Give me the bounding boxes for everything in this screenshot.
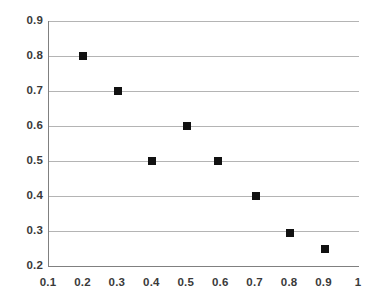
data-point <box>286 229 294 237</box>
x-axis-tick-label: 1 <box>338 277 377 289</box>
data-point <box>321 245 329 253</box>
y-axis-tick-label: 0.3 <box>1 225 43 237</box>
y-axis-tick-label: 0.2 <box>1 260 43 272</box>
data-point <box>114 87 122 95</box>
x-axis-labels: 0.10.20.30.40.50.60.70.80.91 <box>48 277 358 293</box>
data-point <box>252 192 260 200</box>
data-point <box>148 157 156 165</box>
y-axis-tick-label: 0.5 <box>1 155 43 167</box>
y-axis-tick-label: 0.7 <box>1 85 43 97</box>
data-point <box>214 157 222 165</box>
scatter-chart: 0.20.30.40.50.60.70.80.9 0.10.20.30.40.5… <box>0 0 377 304</box>
y-axis-tick-label: 0.8 <box>1 50 43 62</box>
data-point <box>79 52 87 60</box>
plot-area <box>48 21 359 267</box>
data-point <box>183 122 191 130</box>
y-axis-tick-label: 0.9 <box>1 15 43 27</box>
y-axis-labels: 0.20.30.40.50.60.70.80.9 <box>0 0 43 304</box>
y-axis-tick-label: 0.6 <box>1 120 43 132</box>
data-points-layer <box>49 21 359 266</box>
y-axis-tick-label: 0.4 <box>1 190 43 202</box>
